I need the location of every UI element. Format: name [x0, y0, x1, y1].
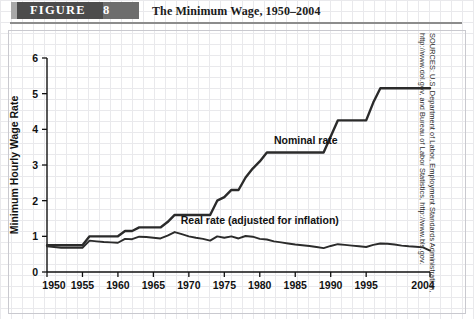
x-tick-label: 1960 — [106, 279, 130, 291]
y-tick-label: 0 — [32, 266, 38, 278]
y-tick-label: 4 — [32, 123, 38, 135]
chart-series — [47, 88, 430, 250]
series-line-real — [47, 232, 430, 251]
y-axis-title-text: Minimum Hourly Wage Rate — [8, 96, 20, 235]
y-tick-labels: 0123456 — [32, 52, 38, 278]
x-tick-labels: 1950195519601965197019751980198519901995… — [42, 279, 435, 291]
y-tick-label: 2 — [32, 195, 38, 207]
series-annotation: Real rate (adjusted for inflation) — [181, 214, 339, 226]
x-tick-label: 1995 — [354, 279, 378, 291]
x-tick-label: 1975 — [213, 279, 237, 291]
y-tick-label: 5 — [32, 88, 38, 100]
chart-axes — [42, 58, 430, 277]
series-annotation: Nominal rate — [274, 134, 338, 146]
x-tick-label: 1950 — [42, 279, 66, 291]
chart-container: 0123456 19501955196019651970197519801985… — [0, 24, 474, 319]
chart-annotations: Nominal rateReal rate (adjusted for infl… — [181, 134, 339, 226]
x-tick-label: 1965 — [142, 279, 166, 291]
y-tick-label: 1 — [32, 230, 38, 242]
x-tick-label: 1970 — [177, 279, 201, 291]
y-tick-label: 3 — [32, 159, 38, 171]
figure-badge-number: 8 — [103, 3, 109, 18]
x-tick-label: 1955 — [71, 279, 95, 291]
x-tick-label: 1980 — [248, 279, 272, 291]
line-chart: 0123456 19501955196019651970197519801985… — [0, 24, 474, 319]
figure-badge-label: FIGURE — [30, 3, 86, 18]
y-axis-title: Minimum Hourly Wage Rate — [8, 96, 20, 235]
y-tick-label: 6 — [32, 52, 38, 64]
figure-header: FIGURE 8 The Minimum Wage, 1950–2004 — [0, 0, 474, 24]
page-title: The Minimum Wage, 1950–2004 — [152, 4, 321, 19]
source-note: SOURCES: U.S. Department of Labor, Emplo… — [418, 33, 437, 301]
x-tick-label: 1990 — [319, 279, 343, 291]
figure-page: FIGURE 8 The Minimum Wage, 1950–2004 012… — [0, 0, 474, 319]
x-tick-label: 1985 — [284, 279, 308, 291]
